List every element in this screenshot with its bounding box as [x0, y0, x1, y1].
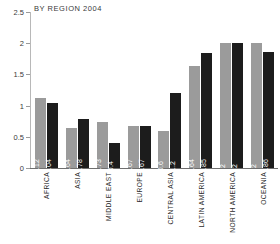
bar[interactable]: 1.86: [263, 52, 274, 168]
category-label-north-america: NORTH AMERICA: [220, 172, 244, 242]
category-label-middle-east: MIDDLE EAST: [96, 172, 120, 242]
bar[interactable]: 2: [220, 43, 231, 168]
bar-value-label: 0.4: [107, 161, 114, 171]
category-label-text: OCEANIA: [259, 172, 266, 205]
bar-group: 0.730.4: [97, 12, 120, 168]
y-tick-label: 0.5: [14, 132, 24, 141]
y-tick-label: 2.5: [14, 8, 24, 17]
bar[interactable]: 1.85: [201, 53, 212, 168]
category-label-text: LATIN AMERICA: [197, 172, 204, 228]
bar-groups: 1.121.040.640.780.730.40.670.670.61.21.6…: [31, 12, 278, 168]
bar-group: 1.121.04: [35, 12, 58, 168]
bar[interactable]: 2: [251, 43, 262, 168]
y-tick-mark: [26, 12, 30, 13]
y-tick-mark: [26, 168, 30, 169]
bar[interactable]: 0.4: [109, 143, 120, 168]
y-tick-label: 2: [20, 39, 24, 48]
bar-group: 21.86: [251, 12, 274, 168]
bar-group: 0.61.2: [158, 12, 181, 168]
bar-group: 1.641.85: [189, 12, 212, 168]
category-label-europe: EUROPE: [127, 172, 151, 242]
bar-value-label: 0.6: [157, 161, 164, 171]
bar-value-label: 1.2: [169, 161, 176, 171]
bar-group: 0.670.67: [128, 12, 151, 168]
y-tick-mark: [26, 106, 30, 107]
bar[interactable]: 2: [232, 43, 243, 168]
y-tick-label: 0: [20, 164, 24, 173]
category-label-text: CENTRAL ASIA: [166, 172, 173, 224]
bar[interactable]: 1.2: [170, 93, 181, 168]
category-label-text: NORTH AMERICA: [228, 172, 235, 233]
bar-group: 22: [220, 12, 243, 168]
bar[interactable]: 1.12: [35, 98, 46, 168]
category-label-text: MIDDLE EAST: [105, 172, 112, 221]
bar-value-label: 2: [250, 164, 257, 168]
y-tick-mark: [26, 137, 30, 138]
bar[interactable]: 0.67: [128, 126, 139, 168]
bar[interactable]: 0.6: [158, 131, 169, 168]
y-tick-mark: [26, 43, 30, 44]
bar[interactable]: 1.64: [189, 66, 200, 168]
category-label-text: ASIA: [74, 172, 81, 189]
y-tick-label: 1.5: [14, 70, 24, 79]
category-label-central-asia: CENTRAL ASIA: [158, 172, 182, 242]
category-label-asia: ASIA: [65, 172, 89, 242]
y-tick-label: 1: [20, 101, 24, 110]
y-tick-mark: [26, 74, 30, 75]
bar-value-label: 2: [231, 164, 238, 168]
category-axis-labels: AFRICAASIAMIDDLE EASTEUROPECENTRAL ASIAL…: [31, 172, 278, 242]
bar-group: 0.640.78: [66, 12, 89, 168]
category-label-text: EUROPE: [136, 172, 143, 203]
category-label-africa: AFRICA: [34, 172, 58, 242]
category-label-oceania: OCEANIA: [251, 172, 275, 242]
bar[interactable]: 0.67: [140, 126, 151, 168]
bar-value-label: 2: [219, 164, 226, 168]
category-label-latin-america: LATIN AMERICA: [189, 172, 213, 242]
bar-chart: BY REGION 2004 00.511.522.5 1.121.040.64…: [0, 0, 280, 244]
category-label-text: AFRICA: [43, 172, 50, 199]
bar[interactable]: 1.04: [47, 103, 58, 168]
bar[interactable]: 0.78: [78, 119, 89, 168]
plot-area: 00.511.522.5 1.121.040.640.780.730.40.67…: [30, 12, 278, 168]
